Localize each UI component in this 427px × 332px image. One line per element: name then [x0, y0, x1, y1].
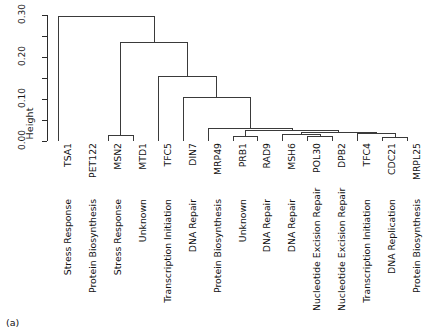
dendrogram-link-m5: [357, 133, 394, 134]
leaf-label-mrpl25: MRPL25: [411, 143, 427, 195]
y-tick: [42, 36, 47, 37]
dendrogram-branch-m13-left: [58, 16, 59, 141]
dendrogram-branch-m10-right: [250, 97, 251, 129]
category-label-mrpl25: Protein Biosynthesis: [411, 199, 427, 311]
figure-caption: (a): [6, 317, 19, 328]
dendrogram-link-m10: [183, 97, 250, 98]
dendrogram-link-m8: [245, 130, 338, 131]
dendrogram-branch-m11-left: [158, 76, 159, 141]
y-tick-label: 0.10: [17, 84, 27, 112]
dendrogram-branch-m7-right: [376, 132, 377, 134]
dendrogram-link-m6: [282, 134, 319, 135]
dendrogram-branch-m2-right: [257, 136, 258, 141]
dendrogram-branch-m10-left: [183, 97, 184, 141]
dendrogram-link-m9: [208, 128, 292, 129]
dendrogram-link-m12: [120, 42, 187, 43]
dendrogram-branch-m12-right: [187, 42, 188, 76]
dendrogram-link-m7: [301, 132, 376, 133]
dendrogram-link-m11: [158, 76, 216, 77]
dendrogram-link-m3: [307, 136, 332, 137]
dendrogram-branch-m8-right: [338, 130, 339, 132]
dendrogram-branch-m13-right: [154, 16, 155, 42]
dendrogram-link-m13: [58, 16, 154, 17]
y-tick: [42, 99, 47, 100]
dendrogram-plot-area: [48, 8, 417, 141]
y-tick-label: 0.20: [17, 42, 27, 70]
y-tick-label-wrap: 0.20: [8, 51, 36, 63]
y-tick: [42, 141, 47, 142]
dendrogram-link-m1: [108, 135, 133, 136]
y-tick: [42, 78, 47, 79]
dendrogram-branch-m9-right: [292, 128, 293, 130]
dendrogram-branch-m3-right: [332, 136, 333, 141]
dendrogram-branch-m11-right: [216, 76, 217, 97]
y-tick: [42, 57, 47, 58]
y-tick-label-wrap: 0.10: [8, 93, 36, 105]
dendrogram-branch-m1-right: [133, 135, 134, 141]
dendrogram-branch-m4-right: [407, 137, 408, 141]
dendrogram-branch-m5-right: [395, 133, 396, 136]
y-tick-label-wrap: 0.00: [8, 135, 36, 147]
y-tick-label-wrap: 0.30: [8, 9, 36, 21]
dendrogram-branch-m6-right: [320, 134, 321, 137]
dendrogram-branch-m6-left: [282, 134, 283, 141]
dendrogram-branch-m5-left: [357, 133, 358, 141]
dendrogram-branch-m12-left: [120, 42, 121, 134]
y-tick-label: 0.30: [17, 0, 27, 28]
dendrogram-link-m4: [382, 137, 407, 138]
dendrogram-branch-m9-left: [208, 128, 209, 141]
y-tick: [42, 15, 47, 16]
y-tick: [42, 120, 47, 121]
dendrogram-link-m2: [233, 136, 258, 137]
y-tick-label: 0.00: [17, 126, 27, 154]
